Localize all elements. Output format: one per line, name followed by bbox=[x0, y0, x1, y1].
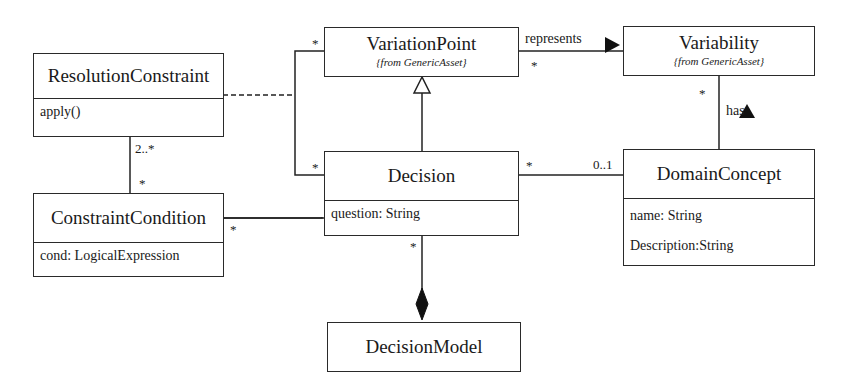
attribute: question: String bbox=[331, 203, 512, 225]
multiplicity-composition-part: * bbox=[410, 239, 417, 255]
multiplicity-condition-right: * bbox=[230, 222, 237, 238]
attribute: Description:String bbox=[630, 231, 808, 261]
class-name: ResolutionConstraint bbox=[34, 54, 223, 98]
represents-label: represents bbox=[525, 31, 582, 47]
attributes-section: question: String bbox=[325, 200, 518, 229]
multiplicity-represents-vp: * bbox=[531, 58, 538, 74]
attributes-section: cond: LogicalExpression bbox=[34, 242, 223, 271]
class-name: ConstraintCondition bbox=[34, 194, 223, 242]
multiplicity-resolution: 2..* bbox=[135, 141, 155, 157]
class-name: Variability bbox=[624, 29, 814, 57]
class-name: Decision bbox=[325, 152, 518, 200]
class-variability[interactable]: Variability {from GenericAsset} bbox=[623, 26, 815, 76]
operations-section: apply() bbox=[34, 98, 223, 139]
composition-diamond-icon bbox=[416, 288, 428, 320]
generalization-arrow-icon bbox=[414, 77, 430, 93]
class-decision-model[interactable]: DecisionModel bbox=[327, 322, 521, 372]
multiplicity-vp-left: * bbox=[312, 36, 319, 52]
class-name: DomainConcept bbox=[624, 150, 814, 198]
multiplicity-decision-right: * bbox=[526, 158, 533, 174]
class-constraint-condition[interactable]: ConstraintCondition cond: LogicalExpress… bbox=[33, 193, 224, 277]
class-domain-concept[interactable]: DomainConcept name: String Description:S… bbox=[623, 149, 815, 266]
vp-decision-association-line bbox=[295, 51, 325, 175]
class-variation-point[interactable]: VariationPoint {from GenericAsset} bbox=[324, 27, 519, 77]
multiplicity-has-variability: * bbox=[699, 86, 706, 102]
multiplicity-condition-top: * bbox=[139, 176, 146, 192]
attribute: name: String bbox=[630, 201, 808, 231]
class-stereotype: {from GenericAsset} bbox=[325, 56, 518, 68]
multiplicity-domainconcept: 0..1 bbox=[593, 157, 613, 173]
class-name: DecisionModel bbox=[328, 323, 520, 371]
has-label: has bbox=[726, 103, 745, 119]
class-stereotype: {from GenericAsset} bbox=[624, 55, 814, 67]
attribute: cond: LogicalExpression bbox=[40, 245, 217, 267]
operation: apply() bbox=[40, 101, 217, 123]
class-name: VariationPoint bbox=[325, 30, 518, 58]
attributes-section: name: String Description:String bbox=[624, 198, 814, 265]
class-resolution-constraint[interactable]: ResolutionConstraint apply() bbox=[33, 53, 224, 137]
multiplicity-decision-left: * bbox=[312, 160, 319, 176]
class-decision[interactable]: Decision question: String bbox=[324, 151, 519, 236]
